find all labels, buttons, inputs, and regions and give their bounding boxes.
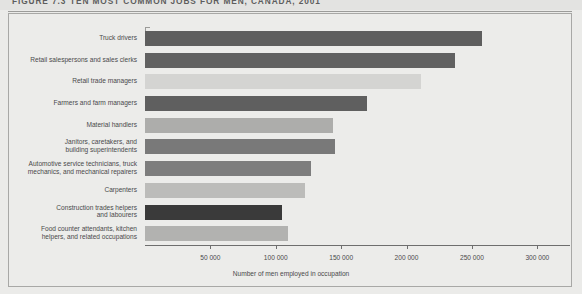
category-label: Retail salespersons and sales clerks bbox=[0, 56, 137, 64]
x-axis-tick-label: 200 000 bbox=[395, 254, 419, 261]
x-axis-tick-label: 50 000 bbox=[200, 254, 220, 261]
bar-row: Material handlers bbox=[145, 115, 570, 137]
x-axis-tick bbox=[407, 245, 408, 249]
category-label: Food counter attendants, kitchen helpers… bbox=[0, 225, 137, 240]
category-label: Material handlers bbox=[0, 121, 137, 129]
category-label: Janitors, caretakers, and building super… bbox=[0, 138, 137, 153]
category-label: Construction trades helpers and labourer… bbox=[0, 204, 137, 219]
bar-row: Retail trade managers bbox=[145, 71, 570, 93]
bar-row: Carpenters bbox=[145, 180, 570, 202]
bar bbox=[145, 96, 367, 111]
bar-row: Truck drivers bbox=[145, 28, 570, 50]
bar bbox=[145, 74, 421, 89]
category-label: Retail trade managers bbox=[0, 77, 137, 85]
figure-plate: FIGURE 7.3 TEN MOST COMMON JOBS FOR MEN,… bbox=[0, 0, 582, 294]
title-divider bbox=[8, 11, 572, 12]
x-axis-tick-label: 300 000 bbox=[525, 254, 549, 261]
bar bbox=[145, 118, 333, 133]
x-axis-tick bbox=[276, 245, 277, 249]
x-axis-tick-label: 250 000 bbox=[460, 254, 484, 261]
bar-row: Janitors, caretakers, and building super… bbox=[145, 136, 570, 158]
x-axis-tick bbox=[210, 245, 211, 249]
bar-row: Food counter attendants, kitchen helpers… bbox=[145, 223, 570, 245]
figure-title-bar: FIGURE 7.3 TEN MOST COMMON JOBS FOR MEN,… bbox=[0, 0, 582, 10]
figure-number: FIGURE 7.3 bbox=[12, 0, 66, 6]
bar bbox=[145, 31, 482, 46]
figure-title: TEN MOST COMMON JOBS FOR MEN, CANADA, 20… bbox=[70, 0, 321, 6]
category-label: Truck drivers bbox=[0, 34, 137, 42]
x-axis-title: Number of men employed in occupation bbox=[0, 270, 582, 277]
bar-row: Farmers and farm managers bbox=[145, 93, 570, 115]
category-label: Carpenters bbox=[0, 186, 137, 194]
x-axis-tick-label: 150 000 bbox=[329, 254, 353, 261]
x-axis-line bbox=[145, 245, 570, 246]
category-label: Automotive service technicians, truck me… bbox=[0, 160, 137, 175]
bar bbox=[145, 161, 311, 176]
x-axis-tick bbox=[537, 245, 538, 249]
x-axis-tick bbox=[341, 245, 342, 249]
category-label: Farmers and farm managers bbox=[0, 99, 137, 107]
bar-row: Retail salespersons and sales clerks bbox=[145, 50, 570, 72]
bar bbox=[145, 139, 335, 154]
bar bbox=[145, 226, 288, 241]
bar bbox=[145, 205, 282, 220]
bar-chart-plot-area: Truck driversRetail salespersons and sal… bbox=[145, 28, 570, 245]
x-axis-tick-label: 100 000 bbox=[264, 254, 288, 261]
bar-row: Automotive service technicians, truck me… bbox=[145, 158, 570, 180]
bar bbox=[145, 53, 455, 68]
x-axis-tick bbox=[472, 245, 473, 249]
bar bbox=[145, 183, 305, 198]
bar-row: Construction trades helpers and labourer… bbox=[145, 202, 570, 224]
